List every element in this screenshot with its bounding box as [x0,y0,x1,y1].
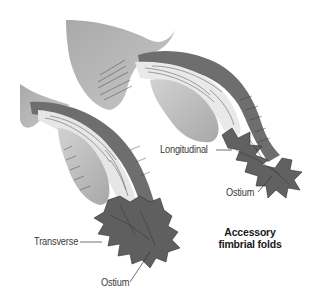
lower-tube-drawing [20,84,180,282]
label-transverse: Transverse [34,235,78,247]
label-longitudinal: Longitudinal [160,143,208,155]
label-ostium-upper: Ostium [226,186,254,198]
fimbriae-lower [94,196,180,268]
caption-line-1: Accessory [218,226,282,238]
anatomical-figure: Longitudinal Ostium Transverse Ostium Ac… [0,0,321,300]
label-ostium-lower: Ostium [101,276,129,288]
figure-caption: Accessory fimbrial folds [218,226,282,250]
caption-line-2: fimbrial folds [218,238,282,250]
